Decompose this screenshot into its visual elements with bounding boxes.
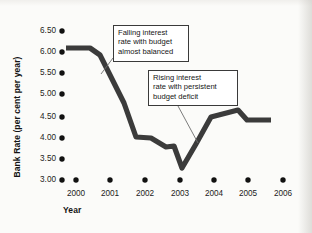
y-tick-dot xyxy=(59,28,64,33)
annotation-rising-rate: Rising interest rate with persistent bud… xyxy=(148,70,238,106)
x-tick-label-2006: 2006 xyxy=(268,189,298,198)
x-tick-label-2004: 2004 xyxy=(199,189,229,198)
x-tick-label-2003: 2003 xyxy=(165,189,195,198)
x-tick-dot xyxy=(211,177,216,182)
y-tick-label-450: 4.50 xyxy=(30,112,56,121)
annotation-rising-line-3: budget deficit xyxy=(153,92,234,101)
y-tick-dot xyxy=(59,70,64,75)
y-tick-dot xyxy=(59,114,64,119)
x-tick-dot xyxy=(73,177,78,182)
annotation-falling-rate: Falling interest rate with budget almost… xyxy=(113,25,189,62)
y-tick-label-500: 5.00 xyxy=(30,89,56,98)
x-tick-label-2002: 2002 xyxy=(130,189,160,198)
y-tick-label-650: 6.50 xyxy=(30,26,56,35)
x-tick-dot xyxy=(280,177,285,182)
x-tick-label-2001: 2001 xyxy=(95,189,125,198)
y-tick-label-550: 5.50 xyxy=(30,68,56,77)
annotation-rising-line-1: Rising interest xyxy=(153,73,234,82)
x-tick-dots xyxy=(73,177,285,182)
bank-rate-line xyxy=(66,48,271,168)
annotation-falling-line-2: rate with budget xyxy=(118,37,185,46)
x-tick-label-2000: 2000 xyxy=(61,189,91,198)
y-tick-label-400: 4.00 xyxy=(30,133,56,142)
annotation-falling-line-1: Falling interest xyxy=(118,28,185,37)
y-tick-label-300: 3.00 xyxy=(30,175,56,184)
y-axis-title: Bank Rate (per cent per year) xyxy=(12,37,22,197)
x-tick-dot xyxy=(177,177,182,182)
y-tick-dot xyxy=(59,91,64,96)
y-tick-label-600: 6.00 xyxy=(30,47,56,56)
callout-leader-rising xyxy=(178,106,198,143)
x-tick-label-2005: 2005 xyxy=(233,189,263,198)
y-tick-label-350: 3.50 xyxy=(30,154,56,163)
annotation-rising-line-2: rate with persistent xyxy=(153,82,234,91)
y-tick-dots xyxy=(59,28,64,182)
y-tick-dot xyxy=(59,49,64,54)
x-axis-title: Year xyxy=(63,205,81,215)
y-tick-dot xyxy=(59,156,64,161)
x-tick-dot xyxy=(107,177,112,182)
x-tick-dot xyxy=(245,177,250,182)
annotation-falling-line-3: almost balanced xyxy=(118,47,185,56)
y-tick-dot xyxy=(59,135,64,140)
x-tick-dot xyxy=(142,177,147,182)
y-tick-dot xyxy=(59,177,64,182)
chart-figure: 6.50 6.00 5.50 5.00 4.50 4.00 3.50 3.00 … xyxy=(0,0,312,233)
